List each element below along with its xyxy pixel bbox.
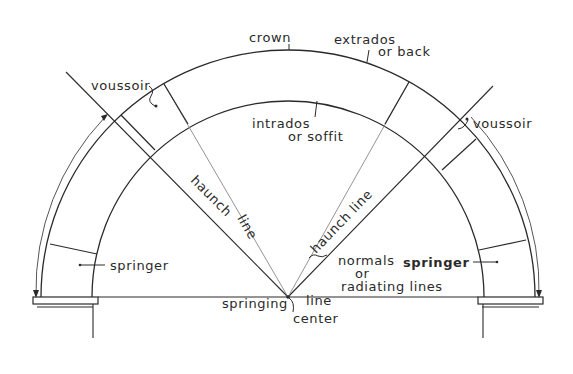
label-voussoir-left: voussoir bbox=[91, 78, 150, 93]
leader-extrados bbox=[367, 50, 369, 62]
label-radiating-lines: radiating lines bbox=[341, 279, 443, 294]
leader-center bbox=[289, 298, 294, 312]
impost-right bbox=[478, 297, 543, 338]
label-intrados-or-soffit: or soffit bbox=[288, 129, 343, 144]
label-springer-right: springer bbox=[403, 255, 470, 270]
label-center: center bbox=[293, 311, 338, 326]
label-springing-line: line bbox=[306, 293, 332, 308]
springer-joint-left bbox=[50, 244, 97, 254]
label-crown: crown bbox=[249, 30, 291, 45]
label-springing: springing bbox=[222, 296, 288, 311]
label-extrados-or-back: or back bbox=[378, 44, 431, 59]
impost-left bbox=[33, 297, 98, 338]
voussoir-joint-right-top bbox=[385, 82, 409, 124]
label-haunch-right: haunch line bbox=[307, 186, 375, 256]
arch-diagram: crown extrados or back intrados or soffi… bbox=[0, 0, 573, 374]
voussoir-joint-left-top bbox=[164, 84, 188, 124]
voussoir-joint-right bbox=[442, 139, 476, 170]
springer-joint-right bbox=[479, 240, 526, 250]
label-haunch-left: haunch bbox=[188, 173, 235, 220]
label-voussoir-right: voussoir bbox=[473, 116, 532, 131]
leader-voussoir-right bbox=[458, 120, 468, 129]
label-springer-left: springer bbox=[110, 258, 169, 273]
label-haunch-left-line: line bbox=[234, 212, 260, 242]
